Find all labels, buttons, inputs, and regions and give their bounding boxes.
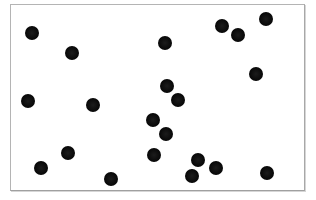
dot [34, 161, 48, 175]
dot [25, 26, 39, 40]
dot [158, 36, 172, 50]
dot [231, 28, 245, 42]
dot [191, 153, 205, 167]
dot [259, 12, 273, 26]
dot [260, 166, 274, 180]
dot [171, 93, 185, 107]
dot [185, 169, 199, 183]
dot-array-frame [10, 4, 305, 191]
dot [215, 19, 229, 33]
dot [146, 113, 160, 127]
dot [159, 127, 173, 141]
dot [249, 67, 263, 81]
dot [86, 98, 100, 112]
dot [209, 161, 223, 175]
dot [147, 148, 161, 162]
dot [21, 94, 35, 108]
dot [104, 172, 118, 186]
dot [65, 46, 79, 60]
dot [160, 79, 174, 93]
dot [61, 146, 75, 160]
